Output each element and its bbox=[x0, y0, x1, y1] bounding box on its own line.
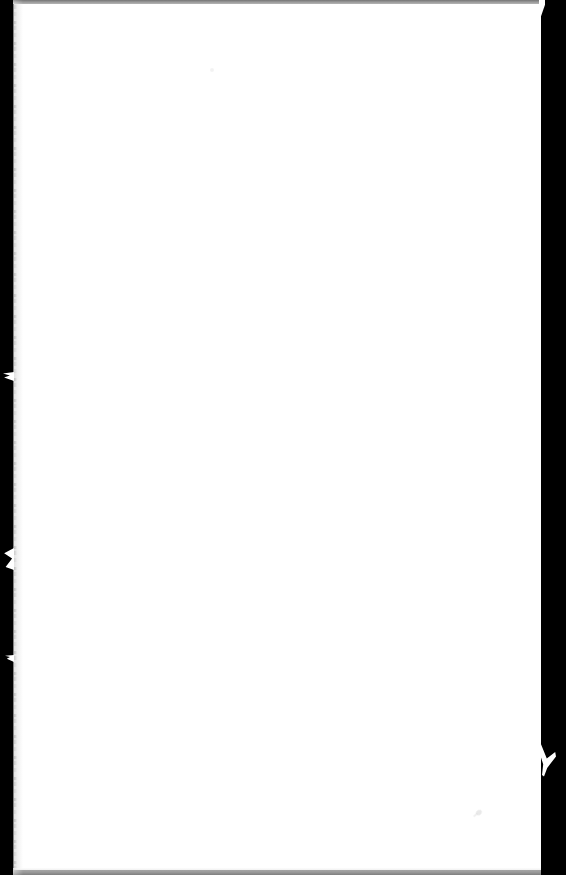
scanned-page bbox=[0, 0, 566, 875]
paper-sheet bbox=[13, 4, 541, 870]
page-content-area bbox=[39, 24, 539, 854]
bottom-scan-edge bbox=[13, 868, 541, 875]
left-border-light-leak bbox=[13, 0, 23, 875]
top-scan-edge bbox=[13, 0, 541, 4]
paper-speck-upper bbox=[210, 68, 214, 72]
right-scan-border bbox=[541, 0, 566, 875]
